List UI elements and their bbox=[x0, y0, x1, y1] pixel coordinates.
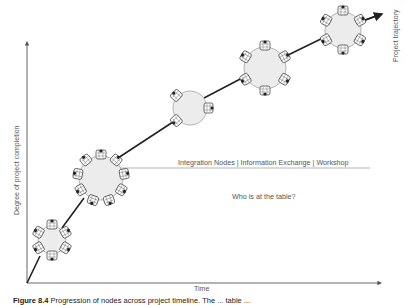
person-icon bbox=[338, 5, 348, 15]
x-axis-label: Time bbox=[194, 285, 209, 292]
question-text: Who is at the table? bbox=[232, 192, 296, 201]
person-icon bbox=[47, 251, 57, 261]
node-5 bbox=[319, 5, 367, 54]
person-icon bbox=[96, 149, 106, 159]
node-4 bbox=[239, 40, 292, 95]
node-1 bbox=[32, 219, 73, 260]
figure-caption: Figure 8.4 Progression of nodes across p… bbox=[13, 296, 250, 305]
caption-prefix: Figure 8.4 bbox=[13, 296, 48, 305]
node-3 bbox=[169, 88, 213, 127]
person-icon bbox=[119, 168, 130, 180]
caption-text: Progression of nodes across project time… bbox=[51, 296, 251, 305]
person-icon bbox=[72, 168, 83, 180]
person-icon bbox=[47, 219, 57, 229]
trajectory-label: Project trajectory bbox=[392, 9, 399, 62]
node-types-text: Integration Nodes | Information Exchange… bbox=[178, 158, 349, 167]
person-icon bbox=[260, 86, 270, 96]
trajectory-line bbox=[27, 14, 381, 283]
node-group bbox=[32, 5, 367, 260]
person-icon bbox=[204, 103, 214, 113]
round-table-icon bbox=[244, 47, 286, 89]
y-axis-label: Degree of project completion bbox=[13, 126, 20, 216]
person-icon bbox=[260, 40, 270, 50]
node-2 bbox=[72, 149, 130, 206]
person-icon bbox=[338, 45, 348, 55]
